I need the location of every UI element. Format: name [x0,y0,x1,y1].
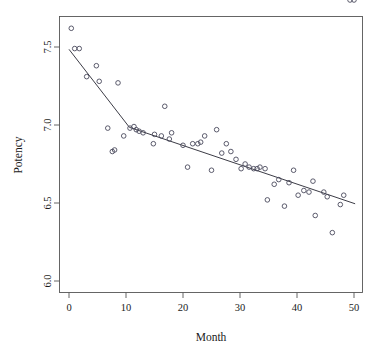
data-point [77,46,82,51]
data-point [219,151,224,156]
x-axis-title: Month [196,331,227,343]
data-point [341,193,346,198]
data-point [159,134,164,139]
data-point [229,149,234,154]
data-point [69,26,74,31]
segmented-fit-line [69,49,355,203]
y-axis-title: Potency [12,136,25,173]
y-axis-tick-labels: 6.0 6.5 7.0 7.5 [42,40,53,287]
x-tick-label-20: 20 [178,302,189,313]
data-point [307,190,312,195]
data-point [116,81,121,86]
data-point [121,134,126,139]
data-point [94,63,99,68]
y-axis-ticks [54,47,60,281]
data-point [162,104,167,109]
data-point [190,141,195,146]
data-point [72,46,77,51]
x-tick-label-30: 30 [235,302,246,313]
data-point [97,79,102,84]
y-tick-label-7-0: 7.0 [42,118,53,131]
data-point [243,162,248,167]
scatter-plot-figure: 6.0 6.5 7.0 7.5 0 10 20 30 40 50 Month P… [0,0,386,360]
data-point [214,127,219,132]
data-point [224,141,229,146]
data-point [311,179,316,184]
data-point [338,202,343,207]
data-point [282,204,287,209]
y-tick-label-6-0: 6.0 [42,274,53,287]
data-point [209,168,214,173]
data-point [272,182,277,187]
data-point [302,188,307,193]
x-axis-tick-labels: 0 10 20 30 40 50 [66,302,359,313]
x-tick-label-50: 50 [349,302,360,313]
data-point [313,213,318,218]
x-tick-label-0: 0 [66,302,71,313]
data-point [234,157,239,162]
data-point [291,168,296,173]
data-point [202,134,207,139]
data-point [105,126,110,131]
data-point [151,141,156,146]
data-point [330,230,335,235]
y-tick-label-6-5: 6.5 [42,196,53,209]
data-point [185,165,190,170]
data-point [296,193,301,198]
data-point [84,74,89,79]
data-point [263,166,268,171]
y-tick-label-7-5: 7.5 [42,40,53,53]
x-tick-label-40: 40 [292,302,303,313]
data-point [325,194,330,199]
x-tick-label-10: 10 [121,302,132,313]
data-point [265,198,270,203]
data-point [169,131,174,136]
data-points-layer [69,0,356,235]
plot-container: 6.0 6.5 7.0 7.5 0 10 20 30 40 50 Month P… [0,0,386,360]
x-axis-ticks [69,293,354,299]
data-point [239,166,244,171]
